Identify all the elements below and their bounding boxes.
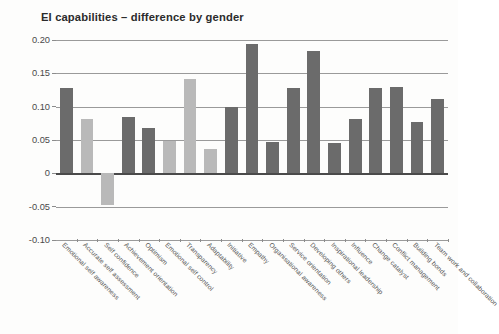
y-tick-label: 0.10 bbox=[32, 102, 50, 112]
x-axis-label: Change catalyst bbox=[371, 241, 410, 280]
zero-axis-line bbox=[56, 173, 448, 174]
y-tick-label: 0.05 bbox=[32, 135, 50, 145]
gridline bbox=[56, 40, 448, 41]
y-tick-label: -0.05 bbox=[29, 202, 50, 212]
y-tick-label: 0 bbox=[45, 168, 50, 178]
bar bbox=[287, 88, 300, 173]
bar bbox=[431, 99, 444, 174]
bar bbox=[266, 142, 279, 173]
bar bbox=[390, 87, 403, 173]
chart-title: EI capabilities – difference by gender bbox=[41, 11, 244, 23]
bar bbox=[328, 143, 341, 174]
y-tick-mark bbox=[52, 106, 56, 107]
y-tick-label: 0.15 bbox=[32, 68, 50, 78]
bar bbox=[101, 173, 114, 205]
bar bbox=[349, 119, 362, 174]
bar bbox=[184, 79, 197, 173]
plot-area: 0.200.150.100.050-0.05-0.10 bbox=[56, 40, 448, 240]
y-tick-label: 0.20 bbox=[32, 35, 50, 45]
bar bbox=[369, 88, 382, 173]
bar bbox=[122, 117, 135, 173]
bar bbox=[163, 141, 176, 174]
x-axis-labels: Emotional self awarenessAccurate self as… bbox=[56, 241, 448, 334]
x-tick-mark bbox=[448, 239, 449, 242]
y-tick-label: -0.10 bbox=[29, 235, 50, 245]
bar bbox=[225, 107, 238, 173]
y-tick-mark bbox=[52, 173, 56, 174]
bar bbox=[411, 122, 424, 173]
bar bbox=[307, 51, 320, 173]
y-tick-mark bbox=[52, 40, 56, 41]
gridline bbox=[56, 207, 448, 208]
bar bbox=[81, 119, 94, 174]
y-tick-mark bbox=[52, 206, 56, 207]
bar bbox=[60, 88, 73, 173]
bar bbox=[246, 44, 259, 173]
x-axis-label: Empathy bbox=[247, 241, 271, 265]
bar bbox=[142, 128, 155, 173]
y-tick-mark bbox=[52, 73, 56, 74]
bar bbox=[204, 149, 217, 174]
y-tick-mark bbox=[52, 140, 56, 141]
